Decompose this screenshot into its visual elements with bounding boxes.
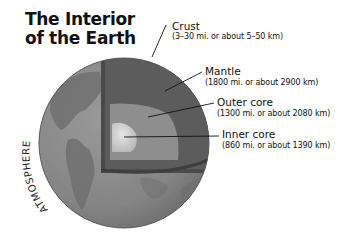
mantle-label: Mantle <box>205 65 241 77</box>
outer-core-thickness: (1300 mi. or about 2080 km) <box>217 109 330 119</box>
crust-leader-line <box>152 25 166 57</box>
crust-thickness: (3–30 mi. or about 5–50 km) <box>172 32 283 42</box>
outer-core-label: Outer core <box>217 96 273 108</box>
mantle-thickness: (1800 mi. or about 2900 km) <box>205 78 318 88</box>
inner-core-label: Inner core <box>222 128 275 140</box>
inner-core-thickness: (860 mi. or about 1390 km) <box>222 141 330 151</box>
cutaway-wedge <box>101 40 230 173</box>
crust-label: Crust <box>172 20 200 32</box>
